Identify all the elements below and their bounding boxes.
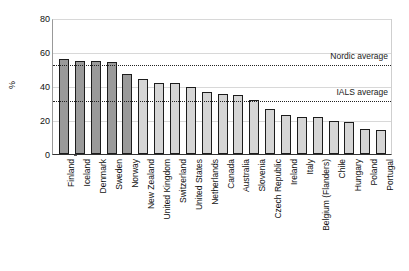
x-label-slot: Hungary — [342, 157, 358, 269]
bar[interactable] — [138, 79, 148, 154]
bar-slot — [246, 42, 262, 154]
x-label-slot: Switzerland — [167, 157, 183, 269]
bar-slot — [56, 42, 72, 154]
bar[interactable] — [281, 115, 291, 154]
x-label-slot: Australia — [230, 157, 246, 269]
x-axis-labels: FinlandIcelandDenmarkSwedenNorwayNew Zea… — [52, 157, 392, 269]
y-tick-mark — [74, 155, 77, 156]
bar[interactable] — [249, 100, 259, 154]
x-label-slot: Italy — [294, 157, 310, 269]
bar-slot — [72, 42, 88, 154]
x-label-slot: Ireland — [278, 157, 294, 269]
bar[interactable] — [59, 59, 69, 154]
bar[interactable] — [122, 74, 132, 154]
y-tick-label: 60 — [28, 49, 50, 58]
bar-slot — [167, 42, 183, 154]
x-label-slot: Netherlands — [199, 157, 215, 269]
reference-line-label: Nordic average — [330, 52, 388, 61]
y-tick-label: 80 — [28, 15, 50, 24]
x-label-slot: Portugal — [374, 157, 390, 269]
bar[interactable] — [170, 83, 180, 154]
x-label-slot: Iceland — [71, 157, 87, 269]
x-label-slot: Denmark — [87, 157, 103, 269]
bar[interactable] — [154, 83, 164, 154]
bar-slot — [310, 42, 326, 154]
bar-slot — [183, 42, 199, 154]
x-label-slot: United States — [183, 157, 199, 269]
bar-slot — [262, 42, 278, 154]
x-label-slot: Sweden — [103, 157, 119, 269]
x-label-slot: New Zealand — [135, 157, 151, 269]
bar[interactable] — [107, 62, 117, 154]
y-tick-label: 0 — [28, 151, 50, 160]
y-axis: 020406080 — [24, 0, 50, 271]
x-label-slot: Chile — [326, 157, 342, 269]
bar-slot — [278, 42, 294, 154]
y-axis-title: % — [7, 81, 17, 89]
bar[interactable] — [313, 117, 323, 154]
bar[interactable] — [218, 94, 228, 154]
bar[interactable] — [91, 61, 101, 155]
reference-line-label: IALS average — [336, 88, 388, 97]
bar-slot — [230, 42, 246, 154]
y-tick-label: 20 — [28, 117, 50, 126]
bar-slot — [119, 42, 135, 154]
bar-slot — [151, 42, 167, 154]
bar[interactable] — [376, 130, 386, 154]
x-label-slot: Belgium (Flanders) — [310, 157, 326, 269]
bar-slot — [88, 42, 104, 154]
x-label-slot: Poland — [358, 157, 374, 269]
reference-line — [53, 101, 391, 102]
bar-slot — [104, 42, 120, 154]
bar-slot — [199, 42, 215, 154]
bar-slot — [135, 42, 151, 154]
bar[interactable] — [360, 129, 370, 155]
bar-chart: % 020406080 Nordic averageIALS average F… — [0, 0, 409, 271]
bar[interactable] — [233, 95, 243, 155]
x-label-slot: United Kingdom — [151, 157, 167, 269]
x-label-slot: Czech Republic — [262, 157, 278, 269]
bar-slot — [215, 42, 231, 154]
x-label-slot: Finland — [55, 157, 71, 269]
y-tick-label: 40 — [28, 83, 50, 92]
x-label-slot: Canada — [215, 157, 231, 269]
bar[interactable] — [329, 121, 339, 154]
bar-slot — [294, 42, 310, 154]
x-label-slot: Slovenia — [246, 157, 262, 269]
x-axis-tick-label: Portugal — [386, 159, 395, 191]
x-label-slot: Norway — [119, 157, 135, 269]
bar[interactable] — [297, 117, 307, 154]
bar[interactable] — [75, 61, 85, 155]
reference-line — [53, 65, 391, 66]
bar[interactable] — [265, 109, 275, 154]
plot-area: Nordic averageIALS average — [52, 19, 392, 155]
bar[interactable] — [186, 87, 196, 154]
bar[interactable] — [344, 122, 354, 154]
